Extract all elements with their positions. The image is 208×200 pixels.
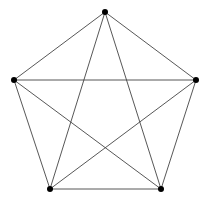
edge-bottom-left-left — [14, 80, 50, 189]
node-right — [193, 77, 199, 83]
edge-top-left — [14, 12, 105, 80]
node-left — [11, 77, 17, 83]
node-bottom-left — [47, 186, 53, 192]
edge-top-bottom-left — [50, 12, 105, 189]
node-bottom-right — [158, 186, 164, 192]
nodes — [11, 9, 199, 192]
edge-top-bottom-right — [105, 12, 161, 189]
edge-right-bottom-right — [161, 80, 196, 189]
complete-graph-k5 — [0, 0, 208, 200]
node-top — [102, 9, 108, 15]
edge-right-bottom-left — [50, 80, 196, 189]
edge-top-right — [105, 12, 196, 80]
edges — [14, 12, 196, 189]
edge-bottom-right-left — [14, 80, 161, 189]
